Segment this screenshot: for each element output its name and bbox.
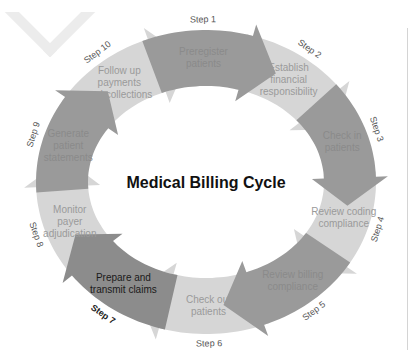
step-6-description: Check outpatients <box>186 294 231 317</box>
step-6-label: Step 6 <box>196 338 222 348</box>
cycle-ring: PreregisterpatientsStep 1Establishfinanc… <box>0 0 412 355</box>
step-5-description: Review billingcompliance <box>262 269 323 292</box>
step-7-description: Prepare andtransmit claims <box>90 272 157 295</box>
step-3-label: Step 3 <box>368 115 386 143</box>
medical-billing-cycle-diagram: PreregisterpatientsStep 1Establishfinanc… <box>0 0 412 355</box>
diagram-title: Medical Billing Cycle <box>126 174 285 191</box>
right-divider-line <box>407 28 408 350</box>
step-8-label: Step 8 <box>27 221 45 249</box>
step-3-description: Check inpatients <box>323 130 362 153</box>
step-4-label: Step 4 <box>369 215 386 243</box>
step-1-label: Step 1 <box>190 14 216 24</box>
step-4-description: Review codingcompliance <box>311 206 376 229</box>
step-9-label: Step 9 <box>25 121 42 149</box>
